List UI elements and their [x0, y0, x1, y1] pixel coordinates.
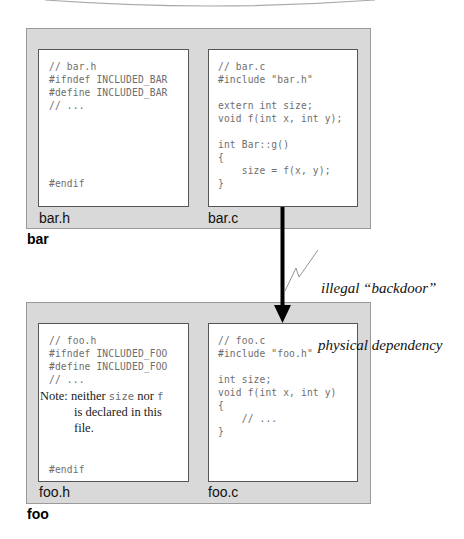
annotation-line-1: illegal “backdoor” [321, 279, 443, 298]
dependency-arrowhead-icon [274, 305, 291, 323]
annotation-line-2: physical dependency [318, 336, 443, 355]
annotation-leader-zigzag [285, 250, 318, 291]
dependency-annotation: illegal “backdoor” physical dependency [321, 241, 443, 374]
